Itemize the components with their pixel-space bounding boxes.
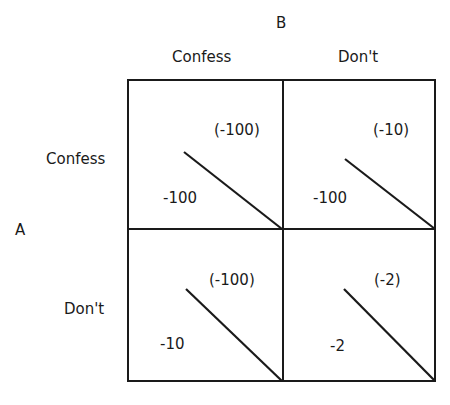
column-player-label: B — [276, 14, 286, 32]
row-payoff-confess-dont: -100 — [313, 189, 347, 207]
col-payoff-dont-confess: (-100) — [209, 271, 255, 289]
col-payoff-confess-confess: (-100) — [214, 121, 260, 139]
row-payoff-dont-dont: -2 — [330, 337, 345, 355]
row-player-label: A — [15, 221, 25, 239]
col-payoff-dont-dont: (-2) — [374, 271, 401, 289]
row-payoff-dont-confess: -10 — [160, 335, 185, 353]
column-header-confess: Confess — [172, 48, 231, 66]
column-header-dont: Don't — [338, 48, 378, 66]
col-payoff-confess-dont: (-10) — [373, 121, 409, 139]
row-payoff-confess-confess: -100 — [163, 189, 197, 207]
row-header-confess: Confess — [46, 150, 105, 168]
row-header-dont: Don't — [64, 300, 104, 318]
payoff-matrix: (-100) -100 (-10) -100 (-100) -10 (-2) -… — [127, 79, 436, 382]
